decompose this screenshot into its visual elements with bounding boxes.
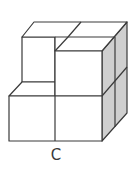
- front-upper-cube-front: [55, 51, 102, 96]
- figure-label: C: [44, 146, 68, 164]
- back-upper-cube-front: [22, 37, 55, 82]
- cube-structure-diagram: [0, 0, 138, 171]
- lower-left-top-surface: [9, 82, 55, 96]
